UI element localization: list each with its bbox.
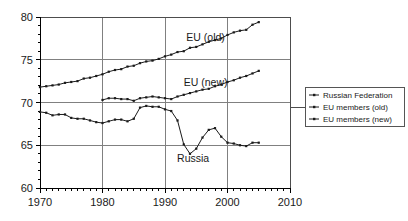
series-marker [120,68,122,70]
legend-label-2: EU members (new) [323,115,392,124]
series-marker [170,54,172,56]
series-marker [164,97,166,99]
series-marker [108,71,110,73]
series-marker [139,97,141,99]
series-marker [101,99,103,101]
series-marker [239,77,241,79]
series-marker [151,60,153,62]
series-marker [126,98,128,100]
x-tick-label-1970: 1970 [28,196,52,208]
legend-marker-2 [313,118,315,120]
y-tick-label-60: 60 [21,182,33,194]
series-marker [258,21,260,23]
series-marker [89,77,91,79]
y-axis: 6065707580 [21,11,40,194]
series-marker [83,118,85,120]
series-marker [183,94,185,96]
series-marker [133,100,135,102]
series-marker [258,70,260,72]
series-marker [39,111,41,113]
x-tick-label-2000: 2000 [215,196,239,208]
series-marker [133,65,135,67]
x-tick-label-2010: 2010 [278,196,302,208]
series-marker [120,98,122,100]
series-marker [183,143,185,145]
series-marker [83,77,85,79]
legend-marker-1 [313,106,315,108]
series-marker [158,58,160,60]
x-axis: 19701980199020002010 [28,188,302,208]
y-tick-label-75: 75 [21,54,33,66]
x-tick-label-1990: 1990 [153,196,177,208]
chart-legend: Russian FederationEU members (old)EU mem… [290,87,404,126]
series-marker [233,79,235,81]
series-marker [114,119,116,121]
y-tick-label-80: 80 [21,11,33,23]
series-marker [51,84,53,86]
legend-label-1: EU members (old) [323,103,388,112]
legend-marker-0 [313,94,315,96]
series-marker [139,62,141,64]
series-marker [245,75,247,77]
series-marker [164,108,166,110]
series-marker [58,113,60,115]
series-marker [145,96,147,98]
series-marker [70,81,72,83]
series-marker [233,142,235,144]
series-marker [145,60,147,62]
annotation-russia: Russia [177,152,209,164]
series-marker [176,95,178,97]
series-marker [201,136,203,138]
series-marker [64,82,66,84]
annotation-eu-new-: EU (new) [184,76,228,88]
chart-canvas: 6065707580 19701980199020002010 EU (old)… [0,0,408,221]
series-marker [170,98,172,100]
series-marker [95,75,97,77]
series-marker [58,83,60,85]
series-marker [201,89,203,91]
series-marker [126,65,128,67]
series-marker [189,47,191,49]
series-marker [126,120,128,122]
series-marker [226,142,228,144]
series-marker [64,113,66,115]
series-marker [39,86,41,88]
series-marker [183,50,185,52]
series-marker [151,106,153,108]
x-tick-label-1980: 1980 [90,196,114,208]
series-marker [245,29,247,31]
series-marker [220,136,222,138]
series-marker [195,46,197,48]
series-marker [158,106,160,108]
series-marker [195,148,197,150]
series-marker [195,90,197,92]
series-marker [114,97,116,99]
series-marker [251,24,253,26]
series-marker [189,92,191,94]
series-marker [114,69,116,71]
series-marker [51,114,53,116]
life-expectancy-line-chart: 6065707580 19701980199020002010 EU (old)… [0,0,408,221]
series-marker [226,34,228,36]
series-marker [251,72,253,74]
series-marker [176,119,178,121]
series-marker [170,110,172,112]
series-marker [70,117,72,119]
series-marker [208,129,210,131]
series-marker [45,112,47,114]
series-marker [76,118,78,120]
legend-label-0: Russian Federation [323,91,392,100]
series-marker [120,119,122,121]
y-tick-label-70: 70 [21,97,33,109]
annotation-eu-old-: EU (old) [186,31,225,43]
series-marker [239,144,241,146]
series-marker [89,119,91,121]
series-marker [158,96,160,98]
series-marker [151,95,153,97]
series-marker [139,107,141,109]
series-marker [108,120,110,122]
series-marker [101,73,103,75]
series-marker [258,142,260,144]
series-marker [76,80,78,82]
series-marker [45,85,47,87]
